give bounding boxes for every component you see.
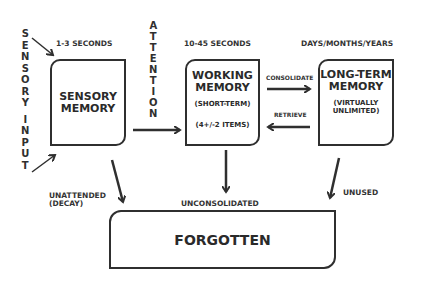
unattended-label-line2: (DECAY) [49, 200, 106, 208]
letter: N [149, 108, 157, 119]
long-term-memory-title-2: MEMORY [329, 81, 384, 93]
working-memory-title-2: MEMORY [195, 82, 250, 94]
letter: T [150, 75, 157, 86]
letter: T [22, 160, 29, 172]
consolidate-label: CONSOLIDATE [266, 74, 313, 81]
letter: O [149, 97, 158, 108]
letter: T [150, 42, 157, 53]
sensory-memory-title-1: SENSORY [59, 91, 117, 103]
attention-label: A T T E N T I O N [149, 20, 158, 119]
sensory-duration: 1-3 SECONDS [56, 39, 112, 48]
working-memory-box: WORKING MEMORY (SHORT-TERM) (4+/-2 ITEMS… [185, 59, 260, 146]
letter: O [21, 74, 30, 86]
forgotten-title: FORGOTTEN [174, 234, 270, 246]
letter: N [21, 51, 29, 63]
sensory-memory-title-2: MEMORY [61, 103, 116, 115]
unattended-label: UNATTENDED (DECAY) [49, 192, 106, 208]
letter: E [22, 40, 29, 52]
working-memory-sub-1: (SHORT-TERM) [195, 100, 251, 108]
letter: I [151, 86, 155, 97]
forgotten-box: FORGOTTEN [109, 210, 336, 269]
unused-label: UNUSED [343, 188, 378, 197]
long-term-memory-box: LONG-TERM MEMORY (VIRTUALLY UNLIMITED) [318, 59, 394, 146]
letter: S [22, 63, 29, 75]
letter: I [23, 114, 27, 126]
letter: Y [22, 97, 29, 109]
unattended-arrow [112, 160, 123, 202]
letter: R [21, 86, 29, 98]
sensory-input-arrow-bottom [32, 155, 55, 172]
letter: N [21, 125, 29, 137]
letter: U [21, 148, 29, 160]
long-term-duration: DAYS/MONTHS/YEARS [301, 39, 393, 48]
letter: E [150, 53, 157, 64]
sensory-input-label: S E N S O R Y I N P U T [21, 28, 30, 171]
unused-arrow [330, 158, 339, 198]
letter: P [22, 137, 29, 149]
letter: T [150, 31, 157, 42]
retrieve-label: RETRIEVE [274, 111, 307, 118]
letter: N [149, 64, 157, 75]
long-term-memory-sub-1: (VIRTUALLY [334, 99, 379, 107]
unconsolidated-label: UNCONSOLIDATED [181, 199, 259, 208]
letter: S [22, 28, 29, 40]
long-term-memory-sub-2: UNLIMITED) [333, 107, 380, 115]
working-duration: 10-45 SECONDS [184, 39, 251, 48]
letter: A [149, 20, 157, 31]
sensory-memory-box: SENSORY MEMORY [50, 59, 126, 146]
working-memory-sub-2: (4+/-2 ITEMS) [195, 121, 249, 129]
sensory-input-arrow-top [32, 38, 53, 55]
